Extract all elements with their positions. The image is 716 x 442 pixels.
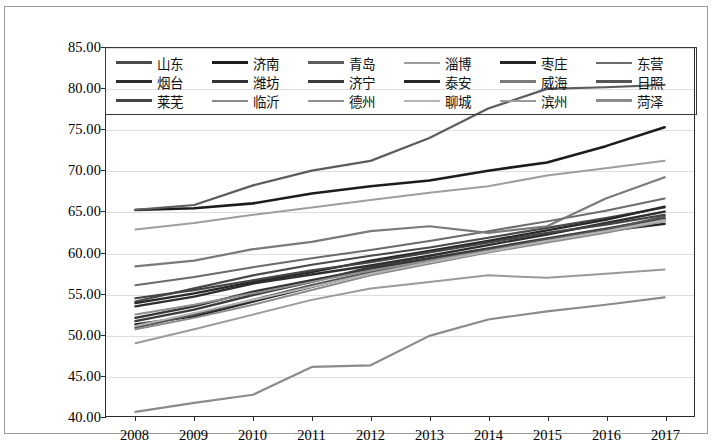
legend-item-潍坊[interactable]: 潍坊: [212, 72, 308, 92]
legend-swatch-icon: [212, 80, 248, 82]
x-axis-tick-label: 2015: [518, 428, 578, 442]
legend-swatch-icon: [500, 80, 536, 82]
x-axis-tick-label: 2014: [459, 428, 519, 442]
x-axis-tick-label: 2017: [636, 428, 696, 442]
legend-label: 山东: [157, 53, 183, 73]
x-axis-tick-mark: [489, 417, 490, 421]
legend-swatch-icon: [116, 61, 152, 63]
legend-item-济南[interactable]: 济南: [212, 53, 308, 73]
legend-swatch-icon: [404, 80, 440, 82]
legend-label: 淄博: [445, 53, 471, 73]
chart-frame: 40.0045.0050.0055.0060.0065.0070.0075.00…: [4, 6, 708, 434]
legend-swatch-icon: [212, 100, 248, 102]
legend-swatch-icon: [596, 62, 632, 64]
legend-swatch-icon: [596, 80, 632, 82]
series-line: [135, 212, 664, 307]
legend-item-临沂[interactable]: 临沂: [212, 91, 308, 111]
x-axis: 2008200920102011201220132014201520162017: [105, 421, 695, 442]
y-axis-tick-label: 85.00: [15, 40, 101, 55]
x-axis-tick-label: 2013: [400, 428, 460, 442]
y-axis-tick-label: 70.00: [15, 163, 101, 178]
y-axis-tick-label: 80.00: [15, 81, 101, 96]
legend-label: 济宁: [349, 72, 375, 92]
y-axis-tick-label: 40.00: [15, 410, 101, 425]
legend-item-菏泽[interactable]: 菏泽: [596, 91, 692, 111]
legend-item-德州[interactable]: 德州: [308, 91, 404, 111]
legend-label: 烟台: [157, 72, 183, 92]
legend-label: 日照: [637, 72, 663, 92]
legend-swatch-icon: [404, 62, 440, 64]
y-axis: 40.0045.0050.0055.0060.0065.0070.0075.00…: [5, 7, 101, 442]
x-axis-tick-mark: [135, 417, 136, 421]
x-axis-tick-mark: [430, 417, 431, 421]
legend-swatch-icon: [500, 100, 536, 102]
legend-label: 威海: [541, 72, 567, 92]
legend-item-聊城[interactable]: 聊城: [404, 91, 500, 111]
y-axis-tick-label: 65.00: [15, 204, 101, 219]
legend-swatch-icon: [308, 61, 344, 63]
y-axis-tick-label: 50.00: [15, 328, 101, 343]
legend-label: 聊城: [445, 91, 471, 111]
legend-label: 潍坊: [253, 72, 279, 92]
y-axis-tick-mark: [101, 417, 106, 418]
legend-item-烟台[interactable]: 烟台: [116, 72, 212, 92]
x-axis-tick-mark: [253, 417, 254, 421]
legend-swatch-icon: [404, 100, 440, 102]
chart-legend: 山东济南青岛淄博枣庄东营烟台潍坊济宁泰安威海日照莱芜临沂德州聊城滨州菏泽: [105, 47, 697, 115]
legend-swatch-icon: [116, 99, 152, 101]
legend-item-滨州[interactable]: 滨州: [500, 91, 596, 111]
y-axis-tick-label: 60.00: [15, 246, 101, 261]
x-axis-tick-label: 2016: [577, 428, 637, 442]
legend-swatch-icon: [308, 100, 344, 102]
legend-label: 滨州: [541, 91, 567, 111]
plot-area: 山东济南青岛淄博枣庄东营烟台潍坊济宁泰安威海日照莱芜临沂德州聊城滨州菏泽: [105, 47, 695, 417]
legend-item-淄博[interactable]: 淄博: [404, 53, 500, 73]
legend-label: 临沂: [253, 91, 279, 111]
x-axis-tick-label: 2008: [105, 428, 165, 442]
legend-swatch-icon: [596, 99, 632, 101]
legend-label: 菏泽: [637, 91, 663, 111]
legend-label: 青岛: [349, 53, 375, 73]
y-axis-tick-label: 55.00: [15, 287, 101, 302]
legend-item-青岛[interactable]: 青岛: [308, 53, 404, 73]
legend-row: 山东济南青岛淄博枣庄东营: [106, 53, 696, 72]
x-axis-tick-mark: [548, 417, 549, 421]
legend-item-东营[interactable]: 东营: [596, 53, 692, 73]
legend-item-枣庄[interactable]: 枣庄: [500, 53, 596, 73]
x-axis-tick-mark: [312, 417, 313, 421]
x-axis-tick-mark: [607, 417, 608, 421]
legend-item-莱芜[interactable]: 莱芜: [116, 91, 212, 111]
legend-item-泰安[interactable]: 泰安: [404, 72, 500, 92]
legend-swatch-icon: [308, 80, 344, 82]
legend-label: 东营: [637, 53, 663, 73]
legend-item-济宁[interactable]: 济宁: [308, 72, 404, 92]
legend-swatch-icon: [212, 61, 248, 64]
x-axis-tick-label: 2012: [341, 428, 401, 442]
legend-item-日照[interactable]: 日照: [596, 72, 692, 92]
x-axis-tick-label: 2011: [282, 428, 342, 442]
legend-label: 济南: [253, 53, 279, 73]
legend-label: 莱芜: [157, 91, 183, 111]
legend-swatch-icon: [500, 61, 536, 63]
x-axis-tick-mark: [371, 417, 372, 421]
legend-row: 烟台潍坊济宁泰安威海日照: [106, 72, 696, 91]
legend-item-山东[interactable]: 山东: [116, 53, 212, 73]
legend-row: 莱芜临沂德州聊城滨州菏泽: [106, 91, 696, 110]
series-line: [135, 297, 664, 411]
x-axis-tick-label: 2009: [164, 428, 224, 442]
legend-label: 泰安: [445, 72, 471, 92]
legend-label: 德州: [349, 91, 375, 111]
legend-swatch-icon: [116, 80, 152, 82]
legend-label: 枣庄: [541, 53, 567, 73]
x-axis-tick-mark: [666, 417, 667, 421]
series-line: [135, 161, 664, 230]
x-axis-tick-label: 2010: [223, 428, 283, 442]
y-axis-tick-label: 45.00: [15, 369, 101, 384]
y-axis-tick-label: 75.00: [15, 122, 101, 137]
series-line: [135, 198, 664, 285]
legend-item-威海[interactable]: 威海: [500, 72, 596, 92]
x-axis-tick-mark: [194, 417, 195, 421]
